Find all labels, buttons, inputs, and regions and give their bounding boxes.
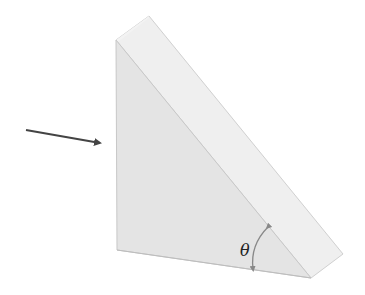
prism-front-face [116,40,311,278]
incident-arrow [26,130,100,143]
prism-diagram: θ [0,0,365,295]
theta-label: θ [240,241,250,260]
